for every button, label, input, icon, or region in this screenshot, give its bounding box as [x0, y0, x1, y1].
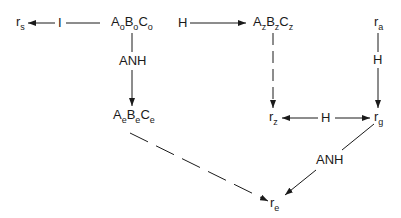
diagram-edges	[0, 0, 401, 218]
node-abc-o: AoBoCo	[110, 15, 154, 29]
node-rs: rs	[15, 15, 26, 29]
node-abc-e: AeBeCe	[112, 108, 156, 122]
edge-label-anh-left: ANH	[118, 54, 147, 68]
edge-label-h-right: H	[372, 53, 383, 67]
edge-label-h-top: H	[177, 16, 188, 30]
edge-label-h-mid: H	[320, 111, 331, 125]
edge-g-to-e-bottom	[285, 170, 316, 195]
edge-label-i: I	[57, 16, 63, 30]
node-ra: ra	[373, 15, 384, 29]
node-re: re	[269, 196, 280, 210]
edge-label-anh-right: ANH	[315, 153, 344, 167]
edge-e-to-re	[130, 133, 268, 201]
node-abc-z: AzBzCz	[252, 15, 294, 29]
node-rz: rz	[268, 110, 279, 124]
edge-g-to-e-top	[342, 124, 374, 150]
node-rg: rg	[373, 110, 384, 124]
